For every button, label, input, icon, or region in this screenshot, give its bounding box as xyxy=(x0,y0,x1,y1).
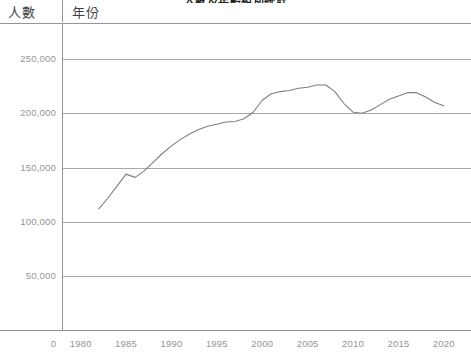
y-tick-label: 0 xyxy=(0,338,56,349)
line-chart: 人數及年齡組別統計 人數 年份 050,000100,000150,000200… xyxy=(0,0,471,353)
y-tick-label: 100,000 xyxy=(0,216,56,227)
x-tick-label: 1990 xyxy=(151,338,191,349)
x-axis-title: 年份 xyxy=(72,2,100,21)
x-tick-label: 1985 xyxy=(106,338,146,349)
y-tick-label: 50,000 xyxy=(0,270,56,281)
x-tick-label: 1980 xyxy=(61,338,101,349)
x-tick-label: 2005 xyxy=(288,338,328,349)
x-tick-label: 2020 xyxy=(424,338,464,349)
y-tick-label: 250,000 xyxy=(0,53,56,64)
header-divider xyxy=(62,0,63,22)
data-series-line xyxy=(99,85,444,209)
plot-svg xyxy=(0,23,471,353)
chart-header: 人數 年份 xyxy=(0,0,471,23)
x-tick-label: 2000 xyxy=(242,338,282,349)
y-axis-title: 人數 xyxy=(8,2,36,21)
x-tick-label: 2010 xyxy=(333,338,373,349)
y-tick-label: 200,000 xyxy=(0,107,56,118)
y-tick-label: 150,000 xyxy=(0,162,56,173)
x-tick-label: 2015 xyxy=(378,338,418,349)
x-tick-label: 1995 xyxy=(197,338,237,349)
plot-area: 050,000100,000150,000200,000250,000 1980… xyxy=(0,23,471,353)
gridlines xyxy=(63,60,471,277)
